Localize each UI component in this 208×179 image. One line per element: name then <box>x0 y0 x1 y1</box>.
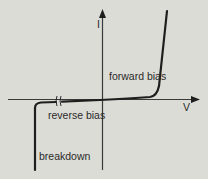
axis-break-marks <box>56 96 61 106</box>
iv-curve <box>35 11 167 170</box>
y-axis-arrow-icon <box>99 9 106 18</box>
diagram-canvas <box>0 0 208 179</box>
x-axis-arrow-icon <box>191 96 200 103</box>
breakdown-label: breakdown <box>39 151 90 162</box>
x-axis-label: V <box>183 102 190 113</box>
forward-bias-label: forward bias <box>109 71 166 82</box>
y-axis-label: I <box>97 19 100 30</box>
reverse-bias-label: reverse bias <box>48 110 105 121</box>
diode-iv-diagram: I V forward bias reverse bias breakdown <box>0 0 208 179</box>
